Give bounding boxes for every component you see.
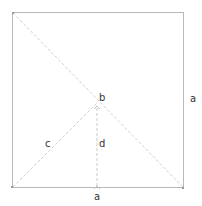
corner-marker-top-left [12,12,14,14]
label-segment-d: d [99,139,105,149]
diagram-canvas [0,0,202,206]
label-segment-c: c [45,139,51,149]
corner-marker-bottom-left [11,186,13,188]
segment-c [13,103,97,187]
label-side-bottom-a: a [94,192,100,202]
label-side-right-a: a [190,94,196,104]
label-center-b: b [99,93,105,103]
corner-marker-bottom-right [182,187,184,189]
